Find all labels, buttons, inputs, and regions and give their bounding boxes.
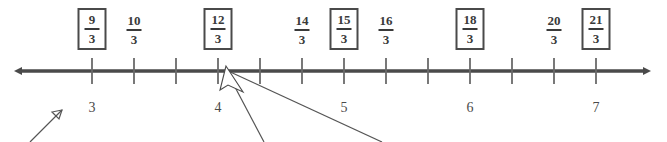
integer-tick-label: 3 xyxy=(89,101,96,115)
fraction-denominator: 3 xyxy=(340,31,349,45)
fraction-bar xyxy=(295,29,310,31)
fraction-label: 143 xyxy=(293,11,312,49)
fraction-numerator: 14 xyxy=(295,14,310,28)
fraction-bar xyxy=(463,28,478,30)
fraction-numerator: 16 xyxy=(379,14,394,28)
fraction-denominator: 3 xyxy=(130,32,139,46)
fraction-numerator: 18 xyxy=(463,13,478,27)
fraction-denominator: 3 xyxy=(550,32,559,46)
fraction-numerator: 10 xyxy=(127,14,142,28)
fraction-label: 103 xyxy=(125,11,144,49)
fraction-numerator: 21 xyxy=(589,13,604,27)
fraction-bar xyxy=(337,28,352,30)
boxed-fraction-label: 213 xyxy=(582,8,611,50)
leader-line xyxy=(226,70,382,142)
fraction-label: 163 xyxy=(377,11,396,49)
fraction-denominator: 3 xyxy=(592,31,601,45)
annotation-overlay xyxy=(30,66,382,142)
fraction-label: 203 xyxy=(545,11,564,49)
leader-lines xyxy=(226,70,382,142)
fraction-denominator: 3 xyxy=(466,31,475,45)
boxed-fraction-label: 93 xyxy=(78,8,107,50)
up-right-arrow-icon xyxy=(30,110,62,142)
fraction-denominator: 3 xyxy=(298,32,307,46)
fraction-denominator: 3 xyxy=(382,32,391,46)
number-line-figure: 93103123143153163183203213 34567 xyxy=(0,0,667,142)
boxed-fraction-label: 183 xyxy=(456,8,485,50)
fraction-bar xyxy=(211,28,226,30)
fraction-bar xyxy=(379,29,394,31)
fraction-denominator: 3 xyxy=(88,31,97,45)
fraction-numerator: 15 xyxy=(337,13,352,27)
fraction-denominator: 3 xyxy=(214,31,223,45)
fraction-bar xyxy=(547,29,562,31)
integer-tick-label: 4 xyxy=(215,101,222,115)
fraction-numerator: 20 xyxy=(547,14,562,28)
integer-tick-label: 6 xyxy=(467,101,474,115)
boxed-fraction-label: 123 xyxy=(204,8,233,50)
fraction-numerator: 12 xyxy=(211,13,226,27)
fraction-bar xyxy=(127,29,142,31)
boxed-fraction-label: 153 xyxy=(330,8,359,50)
fraction-numerator: 9 xyxy=(88,13,97,27)
fraction-bar xyxy=(589,28,604,30)
fraction-bar xyxy=(85,28,100,30)
integer-tick-label: 5 xyxy=(341,101,348,115)
integer-tick-label: 7 xyxy=(593,101,600,115)
